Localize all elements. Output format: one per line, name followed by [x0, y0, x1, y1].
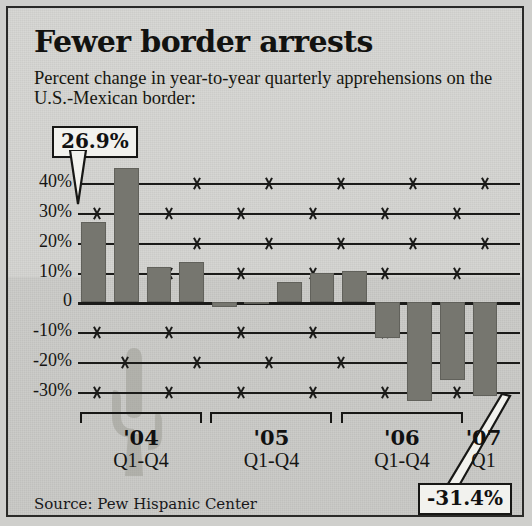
- x-axis-group-year: '05: [226, 425, 316, 450]
- subtitle: Percent change in year-to-year quarterly…: [34, 68, 502, 108]
- bar: [81, 222, 106, 302]
- y-axis-tick-label: -10%: [33, 320, 72, 341]
- plot-area: [78, 158, 520, 408]
- bar: [342, 271, 367, 302]
- bar: [244, 302, 269, 304]
- bar: [179, 262, 204, 302]
- barbed-wire-barbs: [78, 213, 520, 227]
- y-axis-tick-label: -20%: [33, 350, 72, 371]
- bar: [212, 302, 237, 306]
- bar: [375, 302, 400, 338]
- graphic-frame: Fewer border arrests Percent change in y…: [0, 0, 532, 526]
- bar: [277, 282, 302, 303]
- bar: [407, 302, 432, 400]
- y-axis-tick-label: 10%: [39, 261, 72, 282]
- callout-low: -31.4%: [418, 483, 512, 515]
- x-axis-group-quarters: Q1-Q4: [221, 449, 321, 472]
- y-axis-tick-label: 20%: [39, 231, 72, 252]
- bar: [147, 267, 172, 303]
- x-axis-group-year: '07: [438, 425, 528, 450]
- x-axis-group-year: '06: [357, 425, 447, 450]
- bar: [440, 302, 465, 379]
- x-axis-group-bracket: [80, 412, 202, 423]
- x-axis-group-quarters: Q1: [433, 449, 532, 472]
- barbed-wire-barbs: [78, 243, 520, 257]
- bar: [473, 302, 498, 395]
- x-axis-group-bracket: [210, 412, 332, 423]
- x-axis-group-year: '04: [96, 425, 186, 450]
- gridline: [78, 213, 520, 215]
- graphic-border: Fewer border arrests Percent change in y…: [6, 6, 524, 517]
- bar: [310, 273, 335, 303]
- gridline: [78, 243, 520, 245]
- gridline: [78, 183, 520, 185]
- x-axis-group-quarters: Q1-Q4: [91, 449, 191, 472]
- gridline: [78, 273, 520, 275]
- y-axis-tick-label: 0: [63, 290, 72, 311]
- y-axis-tick-label: -30%: [33, 380, 72, 401]
- barbed-wire-barbs: [78, 183, 520, 197]
- x-axis-group-bracket: [341, 412, 463, 423]
- page-title: Fewer border arrests: [34, 24, 373, 59]
- source-note: Source: Pew Hispanic Center: [34, 495, 257, 513]
- callout-high-leader: [52, 150, 132, 220]
